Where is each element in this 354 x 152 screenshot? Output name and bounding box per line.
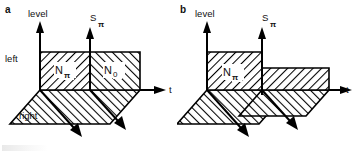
region-label-n-pi-b: N π [222,64,244,82]
region-label-n-pi-a-sub: π [64,71,70,80]
axis-label-s-b: S [262,12,268,23]
scan-artifact [2,145,48,151]
axis-label-s-subscript-b: π [270,20,276,29]
region-label-n-pi-b-text: N [223,66,231,78]
region-right-step-b [262,68,329,90]
figure-root: a level S π t left right N π N 0 [0,0,354,152]
region-label-n-pi-a-text: N [55,64,63,76]
region-label-n-pi-b-sub: π [232,73,238,82]
region-label-n-0-a-sub: 0 [113,70,118,79]
side-label-right-a: right [19,110,38,121]
axis-label-s-a: S [90,12,96,23]
axis-label-level-a: level [28,8,48,19]
region-label-n-0-a-text: N [104,64,112,76]
side-label-left-a: left [5,53,18,64]
panel-a-diagram: a level S π t left right N π N 0 [0,0,177,152]
axis-label-t-a: t [169,84,172,95]
panel-b-diagram: b level S π t N π [177,0,354,152]
panel-letter-b: b [180,4,186,15]
panel-letter-a: a [5,4,11,15]
region-label-n-0-a: N 0 [103,62,125,79]
axis-label-s-subscript-a: π [98,20,104,29]
region-label-n-pi-a: N π [54,62,76,80]
panel-b: b level S π t N π [177,0,354,152]
panel-a: a level S π t left right N π N 0 [0,0,177,152]
axis-label-t-b: t [346,84,349,95]
axis-label-level-b: level [195,8,215,19]
